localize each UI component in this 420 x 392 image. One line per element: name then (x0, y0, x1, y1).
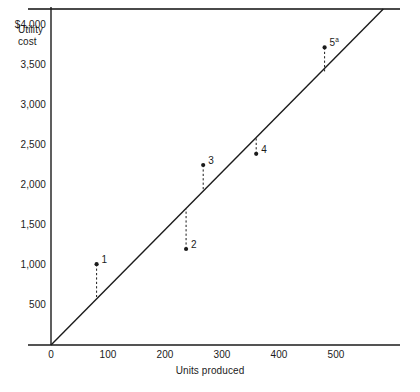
y-tick-2,000: 2,000 (0, 179, 46, 190)
x-tick-500: 500 (316, 349, 356, 361)
x-tick-label: 400 (259, 349, 299, 360)
x-tick-label: 100 (88, 349, 128, 360)
x-tick-100: 100 (88, 349, 128, 361)
x-tick-200: 200 (145, 349, 185, 361)
point-label-3: 3 (208, 156, 214, 166)
y-tick-label: 500 (0, 299, 46, 310)
y-tick-2,500: 2,500 (0, 139, 46, 150)
point-label-1: 1 (102, 255, 108, 265)
data-point-5[interactable] (323, 45, 327, 49)
y-tick-label: 1,500 (0, 219, 46, 230)
point-label-2: 2 (191, 240, 197, 250)
fit-line (51, 9, 383, 345)
y-tick-label: 2,500 (0, 139, 46, 150)
y-tick-label: $4,000 (0, 19, 46, 30)
y-tick-label: 3,000 (0, 99, 46, 110)
y-tick-500: 500 (0, 299, 46, 310)
y-tick-3,000: 3,000 (0, 99, 46, 110)
x-tick-label: 300 (202, 349, 242, 360)
data-point-2[interactable] (184, 247, 188, 251)
x-tick-label: 0 (31, 349, 71, 360)
y-tick-1,500: 1,500 (0, 219, 46, 230)
y-tick-$4,000: $4,000 (0, 19, 46, 30)
x-tick-400: 400 (259, 349, 299, 361)
y-tick-label: 1,000 (0, 259, 46, 270)
data-point-4[interactable] (254, 152, 258, 156)
data-point-1[interactable] (95, 262, 99, 266)
y-tick-1,000: 1,000 (0, 259, 46, 270)
x-tick-label: 500 (316, 349, 356, 360)
x-axis-title: Units produced (0, 365, 420, 377)
y-tick-label: 3,500 (0, 59, 46, 70)
point-label-5: 5a (330, 38, 339, 48)
y-tick-3,500: 3,500 (0, 59, 46, 70)
x-tick-label: 200 (145, 349, 185, 360)
x-tick-0: 0 (31, 349, 71, 361)
point-label-4: 4 (261, 145, 267, 155)
x-tick-300: 300 (202, 349, 242, 361)
data-point-3[interactable] (201, 163, 205, 167)
scatter-plot-figure: Utilitycost 5001,0001,5002,0002,5003,000… (0, 0, 420, 392)
y-tick-label: 2,000 (0, 179, 46, 190)
point-label-superscript: a (335, 36, 339, 43)
plot-canvas (0, 0, 420, 392)
